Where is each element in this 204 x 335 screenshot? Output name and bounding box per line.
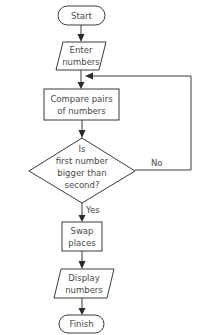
node-decision-label-line2: first number <box>56 156 109 166</box>
arrow-left-icon <box>85 73 93 80</box>
node-start-label: Start <box>71 11 92 21</box>
arrow-down-icon <box>78 82 85 89</box>
arrow-down-icon <box>79 215 86 222</box>
arrow-down-icon <box>79 130 86 138</box>
node-compare-pairs: Compare pairs of numbers <box>44 89 119 120</box>
node-compare-label-line2: of numbers <box>57 106 106 116</box>
node-swap-label-line1: Swap <box>71 226 94 236</box>
node-finish-label: Finish <box>69 319 93 329</box>
node-swap-label-line2: places <box>68 238 96 248</box>
arrow-down-icon <box>79 308 86 315</box>
flowchart: Start Enter numbers Compare pairs of num… <box>0 0 204 335</box>
arrow-down-icon <box>79 261 86 269</box>
node-swap-places: Swap places <box>62 222 102 251</box>
edge-label-yes: Yes <box>85 205 100 215</box>
node-decision: Is first number bigger than second? <box>29 138 135 203</box>
arrow-start-to-enter <box>78 25 85 42</box>
node-display-label-line1: Display <box>68 273 99 283</box>
node-decision-label-line1: Is <box>79 144 87 154</box>
arrow-display-to-finish <box>79 298 86 315</box>
node-decision-label-line3: bigger than <box>57 168 106 178</box>
node-display-label-line2: numbers <box>65 285 103 295</box>
node-start: Start <box>58 6 105 25</box>
node-enter-numbers: Enter numbers <box>56 42 106 70</box>
node-finish: Finish <box>59 315 104 333</box>
node-decision-label-line4: second? <box>65 180 100 190</box>
arrow-down-icon <box>78 34 85 42</box>
arrow-enter-to-compare <box>78 70 85 89</box>
arrow-compare-to-decision <box>79 120 86 138</box>
arrow-yes: Yes <box>79 203 101 222</box>
node-enter-label-line2: numbers <box>62 57 100 67</box>
node-enter-label-line1: Enter <box>70 45 93 55</box>
arrow-swap-to-display <box>79 251 86 269</box>
node-compare-label-line1: Compare pairs <box>50 94 113 104</box>
edge-label-no: No <box>151 158 163 168</box>
node-display-numbers: Display numbers <box>54 269 114 298</box>
